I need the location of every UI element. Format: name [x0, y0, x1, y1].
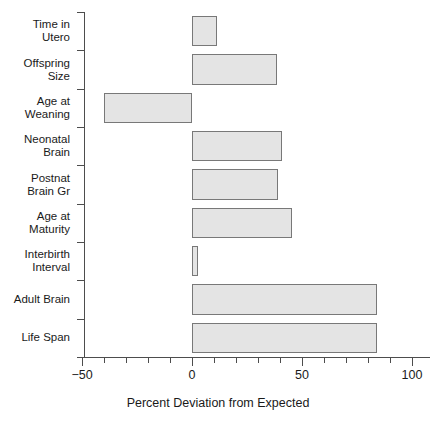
x-axis-major-tick: [302, 358, 303, 366]
y-axis-tick: [77, 127, 85, 128]
y-axis-category-label: Adult Brain: [14, 293, 70, 306]
x-axis-major-tick: [412, 358, 413, 366]
x-axis-minor-tick: [324, 358, 325, 363]
x-axis-minor-tick: [148, 358, 149, 363]
y-axis-category-label: Neonatal Brain: [24, 133, 70, 159]
x-axis-minor-tick: [258, 358, 259, 363]
x-axis-tick-label: −50: [71, 368, 92, 382]
y-axis-tick: [77, 280, 85, 281]
x-axis-minor-tick: [170, 358, 171, 363]
x-axis-minor-tick: [104, 358, 105, 363]
y-axis-category-label: Offspring Size: [24, 57, 70, 83]
y-axis-tick: [77, 165, 85, 166]
y-axis-line: [84, 12, 85, 357]
x-axis-minor-tick: [214, 358, 215, 363]
y-axis-tick: [77, 204, 85, 205]
y-axis-tick: [77, 89, 85, 90]
x-axis-minor-tick: [346, 358, 347, 363]
bar: [192, 169, 278, 200]
bar: [192, 246, 198, 277]
x-axis-minor-tick: [368, 358, 369, 363]
bar: [192, 208, 292, 239]
y-axis-category-label: Age at Weaning: [25, 95, 70, 121]
bar: [192, 54, 277, 85]
y-axis-tick: [77, 50, 85, 51]
y-axis-category-label: Life Span: [21, 331, 70, 344]
x-axis-tick-label: 0: [189, 368, 196, 382]
bar: [192, 323, 377, 354]
x-axis-minor-tick: [390, 358, 391, 363]
chart-figure: Time in UteroOffspring SizeAge at Weanin…: [0, 0, 436, 422]
y-axis-category-label: Interbirth Interval: [25, 248, 70, 274]
y-axis-category-label: Postnat Brain Gr: [27, 172, 70, 198]
bar: [104, 93, 192, 124]
y-axis-tick: [77, 12, 85, 13]
bar: [192, 16, 217, 47]
bar: [192, 131, 282, 162]
y-axis-category-label: Time in Utero: [33, 18, 70, 44]
x-axis-minor-tick: [280, 358, 281, 363]
x-axis-title: Percent Deviation from Expected: [0, 396, 436, 410]
y-axis-tick: [77, 242, 85, 243]
x-axis-tick-label: 50: [295, 368, 309, 382]
x-axis-line: [84, 357, 430, 358]
x-axis-major-tick: [82, 358, 83, 366]
x-axis-minor-tick: [236, 358, 237, 363]
x-axis-major-tick: [192, 358, 193, 366]
y-axis-tick: [77, 357, 85, 358]
y-axis-tick: [77, 319, 85, 320]
x-axis-tick-label: 100: [402, 368, 423, 382]
bar: [192, 284, 377, 315]
x-axis-minor-tick: [126, 358, 127, 363]
y-axis-category-label: Age at Maturity: [29, 210, 70, 236]
